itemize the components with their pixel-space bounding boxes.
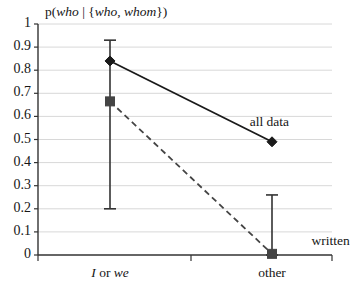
series-line-all-data — [110, 61, 272, 142]
y-axis-label-1: 1 — [0, 15, 31, 31]
y-axis-label-0-6: 0.6 — [0, 107, 31, 123]
series-line-written — [110, 101, 272, 253]
y-axis-label-0-2: 0.2 — [0, 200, 31, 216]
y-axis-label-0: 0 — [0, 246, 31, 262]
x-axis-label-I-or-we: I or we — [50, 265, 170, 281]
y-axis-label-0-1: 0.1 — [0, 223, 31, 239]
y-axis-label-0-7: 0.7 — [0, 84, 31, 100]
y-axis-label-0-9: 0.9 — [0, 38, 31, 54]
data-point-all-data-0 — [105, 56, 115, 66]
y-axis-label-0-3: 0.3 — [0, 177, 31, 193]
data-point-written-1 — [268, 249, 277, 258]
y-axis-label-0-5: 0.5 — [0, 131, 31, 147]
annotation-written: written — [311, 233, 349, 249]
annotation-all-data: all data — [250, 114, 289, 130]
data-point-written-0 — [106, 97, 115, 106]
y-axis-label-0-8: 0.8 — [0, 61, 31, 77]
data-point-all-data-1 — [267, 137, 277, 147]
x-axis-label-other: other — [212, 265, 332, 281]
y-axis-label-0-4: 0.4 — [0, 154, 31, 170]
